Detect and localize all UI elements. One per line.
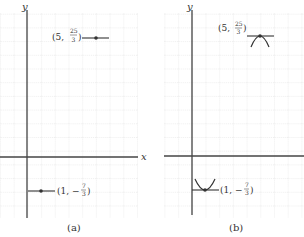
point-label-prefix: (1, − [57,186,80,196]
frac-den: 3 [237,28,241,35]
frac-den: 3 [245,189,249,196]
frac-num: 7 [82,182,86,189]
frac-num: 25 [235,20,243,27]
panel-a: y x (5, 25 3 ) (1, − 7 3 ) (a) [0,1,147,233]
frac-den: 3 [82,190,86,197]
point-label-prefix: (1, − [220,185,243,195]
point-label-prefix: (5, [218,23,230,33]
frac-num: 25 [70,27,78,34]
caption-b: (b) [229,222,243,233]
panel-b: y (5, 25 3 ) (1, − 7 3 ) (b) [164,1,304,233]
x-axis-label-a: x [141,151,147,162]
point-label-suffix: ) [78,32,82,42]
y-axis-label-a: y [21,1,28,12]
y-axis-label-b: y [186,1,193,12]
figure: y x (5, 25 3 ) (1, − 7 3 ) (a) y [0,0,304,237]
frac-num: 7 [245,181,249,188]
caption-a: (a) [67,222,81,233]
point-label-suffix: ) [250,185,254,195]
point-label-prefix: (5, [52,32,64,42]
point-label-suffix: ) [243,23,247,33]
frac-den: 3 [72,36,76,43]
point-label-suffix: ) [87,186,91,196]
